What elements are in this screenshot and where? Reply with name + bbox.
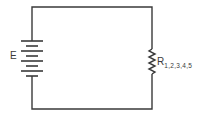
battery-icon bbox=[21, 41, 43, 76]
resistor-label-subscript: 1,2,3,4,5 bbox=[164, 62, 192, 69]
resistor-icon bbox=[149, 49, 155, 74]
top-wire bbox=[32, 7, 152, 49]
resistor-label: R1,2,3,4,5 bbox=[157, 56, 192, 69]
battery-label: E bbox=[10, 50, 17, 61]
bottom-wire bbox=[32, 74, 152, 109]
